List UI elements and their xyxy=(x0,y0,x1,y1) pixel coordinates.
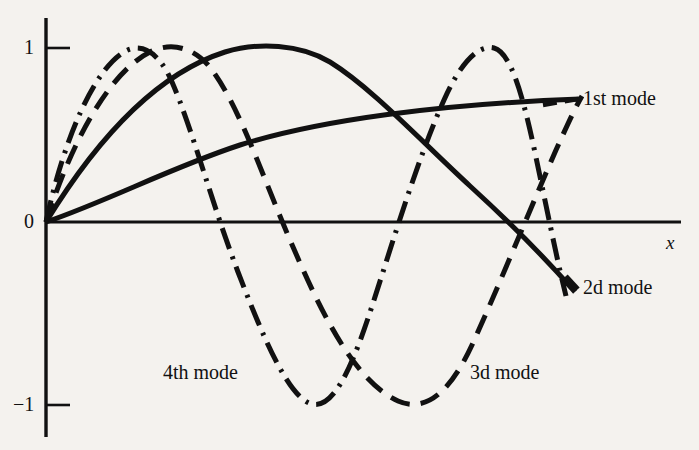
label-3d-mode: 3d mode xyxy=(470,362,539,382)
curve-2d-mode xyxy=(46,46,575,292)
y-tick-label-0: 0 xyxy=(24,211,34,231)
y-tick-label-1: 1 xyxy=(24,37,34,57)
label-2d-mode: 2d mode xyxy=(583,277,652,297)
curve-4th-mode xyxy=(46,47,566,404)
curve-3d-mode xyxy=(46,47,582,404)
x-axis-label: x xyxy=(666,233,674,252)
label-1st-mode: 1st mode xyxy=(583,88,656,108)
mode-shapes-figure xyxy=(0,0,699,450)
label-4th-mode: 4th mode xyxy=(163,362,238,382)
y-tick-label-minus-1: −1 xyxy=(13,394,34,414)
